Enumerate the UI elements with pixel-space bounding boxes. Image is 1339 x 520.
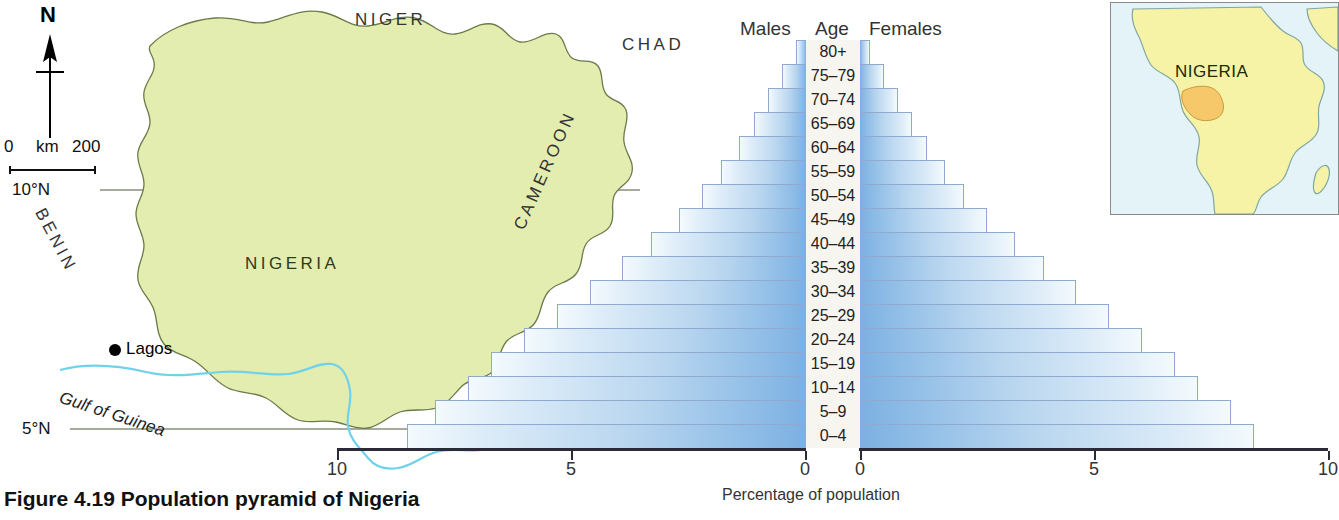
age-label: 15–19 <box>806 352 860 376</box>
age-label: 60–64 <box>806 136 860 160</box>
country-label-chad: CHAD <box>622 35 684 55</box>
x-tick-label-male-10: 10 <box>317 459 357 480</box>
male-bar <box>651 232 806 257</box>
male-bar <box>524 328 806 353</box>
latitude-label-10n: 10°N <box>12 180 50 200</box>
scale-unit-label: km <box>36 137 59 157</box>
female-bar <box>860 400 1231 425</box>
x-tick-label-male-0: 0 <box>785 459 825 480</box>
female-bar <box>860 232 1015 257</box>
female-bar <box>860 88 898 113</box>
female-bar <box>860 112 912 137</box>
country-label-nigeria: NIGERIA <box>245 254 339 274</box>
scale-max-label: 200 <box>72 137 100 157</box>
inset-country-label: NIGERIA <box>1175 62 1248 82</box>
male-bar <box>407 424 806 449</box>
latitude-label-5n: 5°N <box>22 419 51 439</box>
city-dot-icon <box>109 344 121 356</box>
africa-inset-map <box>1110 2 1339 215</box>
age-label: 75–79 <box>806 64 860 88</box>
age-label: 30–34 <box>806 280 860 304</box>
x-tick-label-female-10: 10 <box>1308 459 1339 480</box>
male-bar <box>557 304 806 329</box>
female-bar <box>860 376 1198 401</box>
female-bar <box>860 136 927 161</box>
north-arrow-icon <box>36 34 64 138</box>
scale-bar-icon <box>10 166 95 174</box>
male-bar <box>435 400 806 425</box>
male-bar <box>491 352 806 377</box>
female-bar <box>860 328 1142 353</box>
male-bar <box>782 64 806 89</box>
city-label-lagos: Lagos <box>126 339 172 359</box>
male-bar <box>739 136 806 161</box>
pyramid-header-males: Males <box>740 18 791 40</box>
female-bar <box>860 424 1254 449</box>
age-label: 35–39 <box>806 256 860 280</box>
female-bar <box>860 352 1175 377</box>
age-label: 50–54 <box>806 184 860 208</box>
age-label: 55–59 <box>806 160 860 184</box>
female-bar <box>860 208 987 233</box>
male-bar <box>679 208 806 233</box>
male-bar <box>702 184 806 209</box>
female-bar <box>860 256 1044 281</box>
age-label: 5–9 <box>806 400 860 424</box>
age-label: 0–4 <box>806 424 860 448</box>
age-label: 80+ <box>806 40 860 64</box>
male-bar <box>754 112 806 137</box>
africa-inset-graphic <box>1111 3 1338 214</box>
male-bar <box>590 280 806 305</box>
female-bar <box>860 160 945 185</box>
age-label: 70–74 <box>806 88 860 112</box>
country-label-niger: NIGER <box>355 10 426 30</box>
north-letter: N <box>40 2 56 28</box>
age-label: 45–49 <box>806 208 860 232</box>
male-bar <box>768 88 806 113</box>
scale-zero-label: 0 <box>4 137 13 157</box>
male-bar <box>796 40 806 65</box>
pyramid-header-females: Females <box>869 18 942 40</box>
age-label: 40–44 <box>806 232 860 256</box>
x-tick-label-female-5: 5 <box>1074 459 1114 480</box>
male-bar <box>468 376 806 401</box>
age-label: 65–69 <box>806 112 860 136</box>
figure-caption: Figure 4.19 Population pyramid of Nigeri… <box>4 487 419 511</box>
male-bar <box>622 256 806 281</box>
female-bar <box>860 304 1109 329</box>
x-axis-title: Percentage of population <box>722 486 900 504</box>
male-bar <box>721 160 806 185</box>
age-label: 20–24 <box>806 328 860 352</box>
female-bar <box>860 40 870 65</box>
female-bar <box>860 64 884 89</box>
female-bar <box>860 184 964 209</box>
x-tick-label-female-0: 0 <box>840 459 880 480</box>
pyramid-header-age: Age <box>815 18 849 40</box>
female-bar <box>860 280 1076 305</box>
age-label: 25–29 <box>806 304 860 328</box>
age-label: 10–14 <box>806 376 860 400</box>
x-tick-label-male-5: 5 <box>551 459 591 480</box>
